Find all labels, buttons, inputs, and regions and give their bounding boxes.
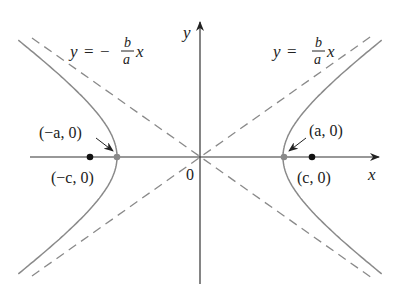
eq-neg-equals: = [84,42,94,61]
eq-pos-lhs: y [271,42,281,61]
left-vertex-pointer [96,138,113,151]
eq-pos-var: x [326,42,335,61]
left-vertex-text: (−a, 0) [39,124,82,142]
left-vertex-label: (−a, 0) [39,124,82,142]
eq-neg-sign: − [100,42,110,61]
right-vertex-pointer [289,138,306,151]
eq-pos-denominator: a [314,52,321,67]
asymptote-negative [32,38,372,278]
eq-neg-denominator: a [123,52,130,67]
right-vertex-label: (a, 0) [309,122,343,140]
right-focus-point [309,154,316,161]
asymptote-negative-equation: y = − b a x [68,35,144,67]
eq-neg-lhs: y [68,42,78,61]
asymptote-positive [32,35,373,276]
right-vertex-point [281,154,288,161]
y-axis-label: y [181,23,191,42]
left-focus-label: (−c, 0) [51,169,94,187]
right-focus-text: (c, 0) [297,169,331,187]
left-focus-text: (−c, 0) [51,169,94,187]
origin-label: 0 [186,166,194,183]
eq-neg-numerator: b [124,35,131,50]
asymptote-positive-equation: y = b a x [271,35,335,67]
left-focus-point [87,154,94,161]
x-axis-label: x [367,165,376,184]
eq-neg-var: x [135,42,144,61]
eq-pos-equals: = [287,42,297,61]
left-vertex-point [114,154,121,161]
eq-pos-numerator: b [315,35,322,50]
right-focus-label: (c, 0) [297,169,331,187]
hyperbola-diagram: y x 0 (−a, 0) (a, 0) (−c, 0) (c, 0) y = … [0,0,402,303]
right-vertex-text: (a, 0) [309,122,343,140]
